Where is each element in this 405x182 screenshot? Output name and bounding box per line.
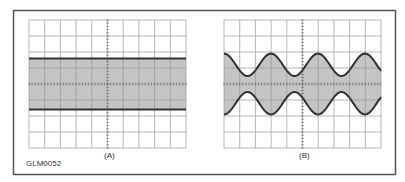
figure [0, 0, 405, 182]
panel-a-label: (A) [104, 151, 115, 160]
panel-b-label: (B) [299, 151, 310, 160]
figure-id-label: GLM0052 [26, 159, 61, 168]
